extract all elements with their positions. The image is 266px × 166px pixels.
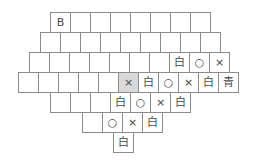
- board-cell[interactable]: [18, 72, 39, 93]
- board-cell[interactable]: [80, 32, 101, 53]
- board-cell[interactable]: 白: [110, 92, 131, 113]
- board-cell[interactable]: ○: [158, 72, 179, 93]
- board-row-1: B: [50, 12, 211, 33]
- board-cell[interactable]: 白: [169, 52, 190, 73]
- board-cell[interactable]: ×: [209, 52, 230, 73]
- board-cell[interactable]: [190, 12, 211, 33]
- board-cell[interactable]: 白: [170, 92, 191, 113]
- board-cell[interactable]: [58, 72, 79, 93]
- board-cell[interactable]: ○: [130, 92, 151, 113]
- board-cell[interactable]: 白: [138, 72, 159, 93]
- board-cell[interactable]: [130, 12, 151, 33]
- board-row-3: 白 ○ ×: [29, 52, 230, 73]
- board-cell[interactable]: [90, 12, 111, 33]
- board-cell[interactable]: [129, 52, 150, 73]
- board-cell[interactable]: ○: [102, 112, 123, 133]
- board-row-5: 白 ○ × 白: [50, 92, 191, 113]
- board-cell[interactable]: [38, 72, 59, 93]
- board-cell[interactable]: [160, 32, 181, 53]
- board-cell[interactable]: ×: [178, 72, 199, 93]
- board-row-2: [40, 32, 221, 53]
- board-cell[interactable]: B: [50, 12, 71, 33]
- board-cell[interactable]: ×: [150, 92, 171, 113]
- board-cell[interactable]: [98, 72, 119, 93]
- board-cell[interactable]: [40, 32, 61, 53]
- board-cell[interactable]: 白: [198, 72, 219, 93]
- board-cell[interactable]: [149, 52, 170, 73]
- board-cell[interactable]: [82, 112, 103, 133]
- board-cell[interactable]: [29, 52, 50, 73]
- board-cell[interactable]: [60, 32, 81, 53]
- board-cell[interactable]: [70, 12, 91, 33]
- board-cell[interactable]: [200, 32, 221, 53]
- board-cell[interactable]: [89, 52, 110, 73]
- board-cell[interactable]: [50, 92, 71, 113]
- board-cell[interactable]: [150, 12, 171, 33]
- board-cell[interactable]: [110, 12, 131, 33]
- board-row-4: × 白 ○ × 白 青: [18, 72, 239, 93]
- board-cell[interactable]: [70, 92, 91, 113]
- board-cell[interactable]: [140, 32, 161, 53]
- board-cell[interactable]: [78, 72, 99, 93]
- board-cell[interactable]: [109, 52, 130, 73]
- board-row-7: 白: [113, 132, 134, 153]
- board-cell[interactable]: 白: [113, 132, 134, 153]
- board-cell-selected[interactable]: ×: [118, 72, 139, 93]
- board-cell[interactable]: [170, 12, 191, 33]
- board-cell[interactable]: ×: [122, 112, 143, 133]
- board-cell[interactable]: ○: [189, 52, 210, 73]
- board-cell[interactable]: [100, 32, 121, 53]
- board-cell[interactable]: [120, 32, 141, 53]
- game-board: B 白 ○ × × 白 ○: [0, 0, 266, 166]
- board-cell[interactable]: 白: [142, 112, 163, 133]
- board-cell[interactable]: [49, 52, 70, 73]
- board-cell[interactable]: [90, 92, 111, 113]
- board-cell[interactable]: [180, 32, 201, 53]
- board-cell[interactable]: [69, 52, 90, 73]
- board-row-6: ○ × 白: [82, 112, 163, 133]
- board-cell[interactable]: 青: [218, 72, 239, 93]
